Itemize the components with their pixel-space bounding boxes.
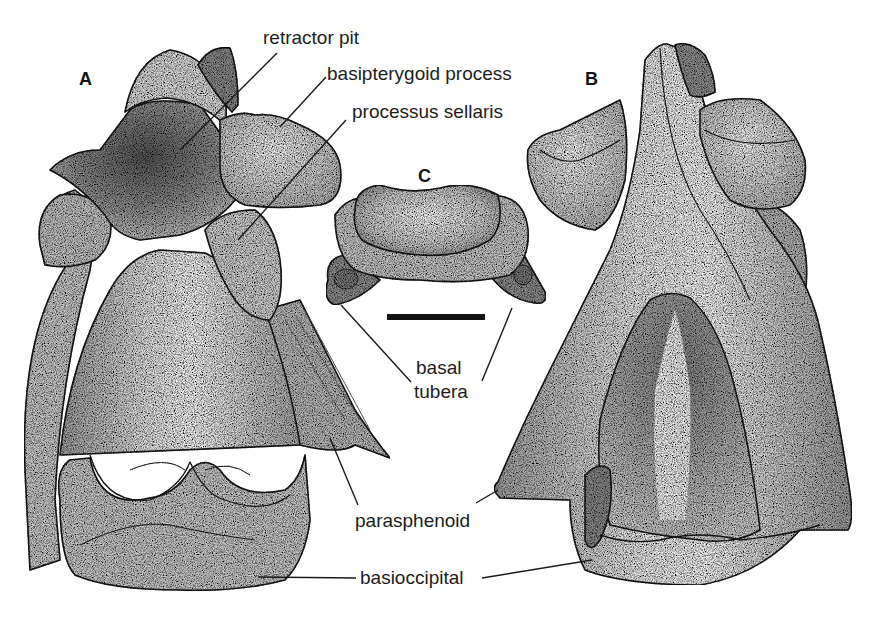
label-basal: basal — [416, 358, 461, 377]
leader-basal-tubera-right — [482, 308, 512, 381]
panel-label-b: B — [585, 70, 598, 88]
panel-a-drawing — [25, 48, 390, 591]
label-parasphenoid: parasphenoid — [355, 511, 470, 530]
leader-basipterygoid-process — [280, 77, 326, 127]
label-basipterygoid-process: basipterygoid process — [327, 64, 512, 83]
label-processus-sellaris: processus sellaris — [352, 102, 503, 121]
leader-parasphenoid-right — [476, 490, 498, 503]
panel-c-drawing — [326, 185, 545, 305]
panel-label-c: C — [418, 167, 431, 185]
label-basioccipital: basioccipital — [360, 568, 464, 587]
label-retractor-pit: retractor pit — [263, 28, 359, 47]
leader-basioccipital-right — [482, 560, 592, 578]
leader-basioccipital-left — [258, 577, 356, 578]
scale-bar — [387, 314, 485, 320]
label-tubera: tubera — [414, 382, 468, 401]
panel-b-drawing — [494, 44, 851, 585]
panel-label-a: A — [79, 70, 92, 88]
